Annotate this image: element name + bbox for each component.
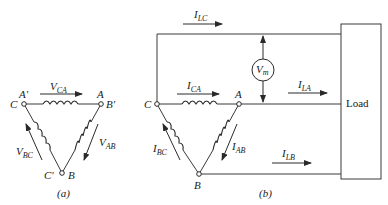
delta-connection-diagram: C A' A B' C' B VCA VAB VBC (a) Load: [0, 0, 388, 205]
load-label: Load: [346, 97, 369, 109]
caption-b: (b): [259, 187, 272, 200]
node-c: [22, 102, 27, 107]
node-c-prime-label: C': [44, 169, 54, 181]
figure-a: C A' A B' C' B VCA VAB VBC (a): [10, 80, 116, 200]
label-vca: VCA: [50, 80, 67, 95]
node-b-b: [197, 172, 202, 177]
winding-ca-b: [157, 101, 239, 104]
node-a-b: [237, 102, 242, 107]
node-a: [99, 102, 104, 107]
winding-bc: [24, 104, 62, 173]
label-iab: IAB: [231, 140, 246, 155]
node-b: [60, 171, 65, 176]
node-c-b: [155, 102, 160, 107]
winding-ab-b: [199, 104, 239, 174]
label-ica: ICA: [186, 79, 201, 94]
node-c-label: C: [10, 98, 18, 110]
label-ilb: ILB: [281, 147, 295, 162]
node-a-prime-label: A': [18, 88, 29, 100]
label-vbc: VBC: [16, 145, 34, 160]
node-a-label: A: [96, 88, 104, 100]
arrow-vab-icon: [84, 124, 98, 160]
node-b-prime-label: B': [106, 98, 116, 110]
node-b-b-label: B: [194, 179, 201, 191]
label-vab: VAB: [99, 136, 116, 151]
node-c-b-label: C: [144, 98, 152, 110]
winding-ab: [62, 104, 101, 173]
winding-ca: [24, 101, 101, 104]
node-a-b-label: A: [234, 88, 242, 100]
node-b-label: B: [68, 169, 75, 181]
label-ilc: ILC: [193, 8, 208, 23]
label-ila: ILA: [297, 78, 311, 93]
label-ibc: IBC: [152, 142, 168, 157]
caption-a: (a): [57, 187, 70, 200]
winding-bc-b: [157, 104, 199, 174]
figure-b: Load C A B Vm: [144, 8, 381, 200]
